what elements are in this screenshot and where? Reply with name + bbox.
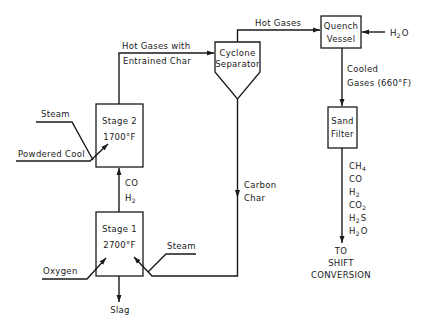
hot-gases-char-label-1: Hot Gases with	[122, 41, 190, 51]
cyclone-label-1: Cyclone	[220, 48, 256, 58]
product-h2s: H2S	[349, 213, 367, 224]
hot-gases-char-label-2: Entrained Char	[123, 56, 191, 66]
hot-gases-stream	[238, 30, 321, 42]
cyclone-separator: Cyclone Separator	[215, 42, 260, 99]
stage-1-label: Stage 1	[102, 224, 137, 234]
product-h2o: H2O	[349, 226, 368, 237]
carbon-char-arrow-icon	[235, 190, 240, 198]
h2-label: H2	[125, 193, 136, 204]
process-flow-diagram: Stage 2 1700°F Stage 1 2700°F Cyclone Se…	[0, 0, 429, 329]
stage-2-reactor: Stage 2 1700°F	[96, 104, 143, 167]
carbon-char-label-1: Carbon	[244, 180, 276, 190]
co-label: CO	[125, 178, 138, 188]
cooled-label-1: Cooled	[347, 64, 378, 74]
oxygen-label: Oxygen	[43, 266, 78, 276]
steam-top-label: Steam	[41, 109, 70, 119]
quench-label-2: Vessel	[327, 34, 356, 44]
filter-label-2: Filter	[331, 129, 354, 139]
quench-label-1: Quench	[324, 21, 359, 31]
destination-line-3: CONVERSION	[311, 270, 371, 280]
cyclone-label-2: Separator	[215, 59, 260, 69]
quench-vessel: Quench Vessel	[321, 16, 361, 48]
product-ch4: CH4	[349, 161, 366, 172]
stage-2-label: Stage 2	[102, 116, 137, 126]
hot-gases-label: Hot Gases	[255, 18, 301, 28]
carbon-char-label-2: Char	[244, 193, 265, 203]
powdered-coal-label: Powdered Cool	[18, 149, 85, 159]
filter-label-1: Sand	[331, 116, 354, 126]
steam-bottom-label: Steam	[167, 241, 196, 251]
steam-bottom-line	[148, 254, 196, 272]
destination-line-2: SHIFT	[328, 258, 354, 268]
destination-line-1: TO	[334, 246, 347, 256]
product-gas-list: CH4 CO H2 CO2 H2S H2O	[349, 161, 368, 237]
slag-label: Slag	[110, 305, 130, 315]
stage-1-reactor: Stage 1 2700°F	[96, 212, 143, 276]
stage-1-temp: 2700°F	[103, 240, 136, 250]
sand-filter: Sand Filter	[328, 107, 357, 148]
product-co2: CO2	[349, 200, 366, 211]
product-h2: H2	[349, 187, 360, 198]
water-label: H2O	[390, 28, 409, 39]
stage-2-temp: 1700°F	[103, 132, 136, 142]
cooled-label-2: Gases (660°F)	[347, 78, 411, 88]
product-co: CO	[349, 174, 362, 184]
